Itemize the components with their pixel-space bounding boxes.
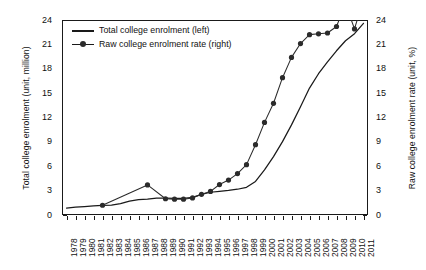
data-point-marker [253,142,258,147]
x-tick-label-2003: 2003 [295,238,303,257]
x-tickmark [166,216,167,220]
data-point-marker [181,197,186,202]
data-point-marker [298,41,303,46]
x-tick-label-1999: 1999 [259,238,267,257]
x-tick-label-2010: 2010 [358,238,366,257]
x-tickmark [130,216,131,220]
data-point-marker [226,177,231,182]
data-point-marker [352,26,357,31]
x-tick-label-2004: 2004 [304,238,312,257]
legend-line-swatch-icon [72,26,94,36]
x-tick-label-2001: 2001 [277,238,285,257]
x-tickmark [76,216,77,220]
right-tick-label-15: 15 [376,89,402,98]
x-tick-label-1986: 1986 [142,238,150,257]
x-tick-label-1987: 1987 [151,238,159,257]
x-tickmark [211,216,212,220]
data-point-marker [280,75,285,80]
left-tick-label-21: 21 [26,40,52,49]
dual-axis-line-chart: Total college enrolment (unit, million) … [0,0,426,270]
x-tick-label-2005: 2005 [313,238,321,257]
x-tickmark [193,216,194,220]
left-tick-label-0: 0 [26,211,52,220]
data-point-marker [163,196,168,201]
x-tick-label-2006: 2006 [322,238,330,257]
x-tick-label-1981: 1981 [97,238,105,257]
x-tickmark [85,216,86,220]
x-tickmark [247,216,248,220]
left-tick-label-3: 3 [26,186,52,195]
x-tick-label-2009: 2009 [349,238,357,257]
data-point-marker [172,197,177,202]
data-point-marker [325,30,330,35]
right-tick-label-6: 6 [376,162,402,171]
x-tick-label-1984: 1984 [124,238,132,257]
data-point-marker [244,162,249,167]
left-tick-label-9: 9 [26,137,52,146]
x-tickmark [337,216,338,220]
left-tick-label-6: 6 [26,162,52,171]
x-tickmark [310,216,311,220]
legend-label-total-enrolment: Total college enrolment (left) [99,24,210,38]
left-tick-label-15: 15 [26,89,52,98]
x-tickmark [364,216,365,220]
legend-line-dot-swatch-icon [72,39,94,49]
data-point-marker [334,24,339,29]
x-tickmark [67,216,68,220]
x-tickmark [301,216,302,220]
right-tick-label-12: 12 [376,113,402,122]
x-tickmark [175,216,176,220]
x-tick-label-2007: 2007 [331,238,339,257]
x-tickmark [274,216,275,220]
x-tick-label-1983: 1983 [115,238,123,257]
data-point-marker [199,192,204,197]
x-tickmark [121,216,122,220]
data-point-marker [289,55,294,60]
data-point-marker [100,203,105,208]
left-tick-label-18: 18 [26,64,52,73]
x-tickmark [256,216,257,220]
x-tick-label-2002: 2002 [286,238,294,257]
legend-label-enrolment-rate: Raw college enrolment rate (right) [99,38,232,52]
x-tickmark [103,216,104,220]
series-total-college-enrolment-line [67,23,364,208]
legend-item-enrolment-rate: Raw college enrolment rate (right) [72,38,232,52]
x-tickmark [94,216,95,220]
x-tickmark [220,216,221,220]
x-tick-label-1980: 1980 [88,238,96,257]
x-tickmark [265,216,266,220]
x-tickmark [346,216,347,220]
x-tick-label-1982: 1982 [106,238,114,257]
x-tick-label-1997: 1997 [241,238,249,257]
right-tick-label-18: 18 [376,64,402,73]
data-point-marker [217,182,222,187]
x-tickmark [139,216,140,220]
chart-legend: Total college enrolment (left) Raw colle… [72,24,232,51]
left-tick-label-24: 24 [26,16,52,25]
x-tick-label-2000: 2000 [268,238,276,257]
x-tick-label-1990: 1990 [178,238,186,257]
x-tick-label-1985: 1985 [133,238,141,257]
x-tickmark [292,216,293,220]
x-tick-label-1988: 1988 [160,238,168,257]
x-tickmark [229,216,230,220]
x-tick-label-1979: 1979 [79,238,87,257]
x-tick-label-1994: 1994 [214,238,222,257]
x-tick-label-2011: 2011 [367,239,375,257]
right-tick-label-3: 3 [376,186,402,195]
right-tick-label-24: 24 [376,16,402,25]
x-tickmark [355,216,356,220]
x-tick-label-1996: 1996 [232,238,240,257]
data-point-marker [208,189,213,194]
x-tick-label-1989: 1989 [169,238,177,257]
x-tick-label-1991: 1991 [187,238,195,257]
x-tickmark [319,216,320,220]
right-tick-label-9: 9 [376,137,402,146]
x-tick-label-2008: 2008 [340,238,348,257]
x-tickmark [157,216,158,220]
x-tick-label-1998: 1998 [250,238,258,257]
right-tick-label-21: 21 [376,40,402,49]
data-point-marker [262,120,267,125]
x-tickmark [202,216,203,220]
right-tick-label-0: 0 [376,211,402,220]
